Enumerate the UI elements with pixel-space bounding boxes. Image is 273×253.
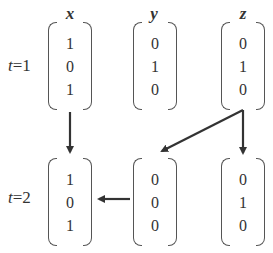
transition-arrows [0, 0, 273, 253]
arrow-z-to-y [162, 110, 243, 151]
